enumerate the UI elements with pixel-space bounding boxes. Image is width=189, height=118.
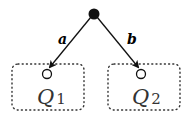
root-node	[89, 9, 100, 20]
state-label-q1: Q1	[37, 85, 66, 109]
state-node-q1	[43, 70, 52, 79]
state-node-q2	[137, 70, 146, 79]
state-label-q2: Q2	[132, 85, 161, 109]
diagram: a b Q1 Q2	[0, 0, 189, 118]
edge-label-b: b	[127, 31, 137, 47]
edge-a	[50, 17, 91, 67]
edge-label-a: a	[58, 31, 67, 47]
